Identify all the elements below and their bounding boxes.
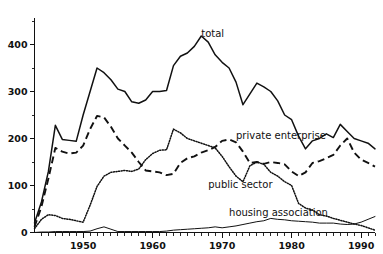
x-axis-tick-label: 1950 xyxy=(70,240,97,251)
chart-container: 0100200300400 19501960197019801990 total… xyxy=(0,0,383,254)
x-axis-tick-label: 1970 xyxy=(209,240,236,251)
x-axis-tick-label: 1960 xyxy=(139,240,166,251)
line-chart-svg: 0100200300400 19501960197019801990 total… xyxy=(0,0,383,254)
annotations-group: totalprivate enterprisepublic sectorhous… xyxy=(201,28,328,218)
series-annotation-private-enterprise: private enterprise xyxy=(236,130,326,141)
x-axis-tick-label: 1980 xyxy=(278,240,305,251)
series-annotation-housing-association: housing association xyxy=(229,207,328,218)
y-tick-labels-group: 0100200300400 xyxy=(8,39,28,238)
y-axis-tick-label: 200 xyxy=(8,133,28,144)
x-axis-tick-label: 1990 xyxy=(348,240,375,251)
series-annotation-public-sector: public sector xyxy=(208,179,273,190)
series-line-housing-association xyxy=(35,217,376,233)
y-axis-tick-label: 100 xyxy=(8,180,28,191)
series-annotation-total: total xyxy=(201,28,224,39)
x-tick-labels-group: 19501960197019801990 xyxy=(70,240,375,251)
y-axis-tick-label: 400 xyxy=(8,39,28,50)
y-axis-tick-label: 300 xyxy=(8,86,28,97)
axes-group xyxy=(30,18,375,238)
y-axis-tick-label: 0 xyxy=(21,227,28,238)
